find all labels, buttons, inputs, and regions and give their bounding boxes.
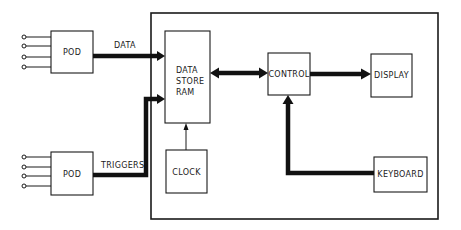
data-store-line-2: STORE <box>176 77 204 86</box>
control-label: CONTROL <box>268 70 309 79</box>
clock-label: CLOCK <box>172 168 201 177</box>
clock-to-store-arrow <box>184 123 189 150</box>
input-pin-icon <box>22 44 26 48</box>
input-pin-icon <box>22 155 26 159</box>
data-store-line-1: DATA <box>176 66 198 75</box>
data-bus: DATA <box>93 41 165 61</box>
input-pin-icon <box>22 174 26 178</box>
keyboard-control-bus <box>283 95 375 173</box>
pod-triggers-label: POD <box>63 170 81 179</box>
clock-block: CLOCK <box>166 150 207 193</box>
arrowhead-icon <box>184 123 189 130</box>
logic-analyzer-block-diagram: POD DATA POD TRIGGERS DATA STORE RAM CLO… <box>0 0 461 230</box>
data-store-line-3: RAM <box>176 88 195 97</box>
arrowhead-icon <box>283 95 294 104</box>
arrowhead-icon <box>157 94 165 104</box>
input-pin-icon <box>22 184 26 188</box>
input-pin-icon <box>22 35 26 39</box>
control-display-bus <box>310 69 371 80</box>
keyboard-block: KEYBOARD <box>374 157 427 192</box>
input-pin-icon <box>22 55 26 59</box>
store-control-bus <box>210 68 268 79</box>
data-store-ram-block: DATA STORE RAM <box>165 31 210 123</box>
data-bus-label: DATA <box>114 41 136 50</box>
pod-triggers-inputs <box>22 155 51 188</box>
arrowhead-right-icon <box>259 68 268 79</box>
arrowhead-icon <box>157 51 165 61</box>
control-block: CONTROL <box>268 53 310 95</box>
input-pin-icon <box>22 165 26 169</box>
pod-triggers-block: POD <box>51 152 93 195</box>
triggers-bus-label: TRIGGERS <box>100 161 144 170</box>
input-pin-icon <box>22 65 26 69</box>
keyboard-label: KEYBOARD <box>377 170 423 179</box>
pod-data-inputs <box>22 35 51 69</box>
triggers-bus: TRIGGERS <box>93 94 165 175</box>
arrowhead-left-icon <box>210 68 219 79</box>
display-label: DISPLAY <box>374 71 409 80</box>
display-block: DISPLAY <box>371 54 412 97</box>
pod-data-label: POD <box>63 48 81 57</box>
pod-data-block: POD <box>51 31 93 73</box>
arrowhead-icon <box>361 69 371 80</box>
